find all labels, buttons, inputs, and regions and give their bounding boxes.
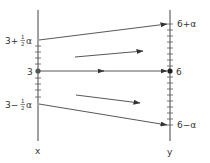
point-6: [167, 68, 172, 73]
label-3-plus-half-alpha: 3+: [5, 36, 18, 46]
arrow-bottom: [39, 104, 167, 125]
label-6-plus-alpha: 6+α: [177, 19, 196, 29]
x-axis-label: x: [35, 146, 41, 156]
arrows: [39, 24, 167, 125]
label-3: 3: [27, 67, 33, 77]
label-6-minus-alpha: 6−α: [177, 120, 196, 130]
frac-den: 2: [21, 41, 25, 47]
arrow-flow-lower: [76, 95, 140, 103]
arrow-top: [39, 24, 167, 40]
y-axis-label: y: [167, 147, 173, 157]
frac-num: 1: [21, 34, 25, 40]
frac-den: 2: [21, 105, 25, 111]
alpha: α: [26, 36, 32, 46]
y-axis-labels: 6+α 6 6−α y: [167, 19, 196, 157]
y-axis: [167, 10, 173, 141]
mapping-diagram: 3+ 1 2 α 3 3− 1 2 α x: [0, 0, 210, 163]
x-axis: [35, 10, 41, 141]
alpha: α: [26, 100, 32, 110]
label-3-minus-half-alpha: 3−: [5, 100, 18, 110]
arrow-flow-upper: [75, 51, 143, 57]
frac-num: 1: [21, 98, 25, 104]
label-6: 6: [176, 67, 182, 77]
